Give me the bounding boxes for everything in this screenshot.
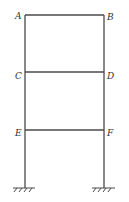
- label-d: D: [106, 71, 114, 81]
- label-b: B: [106, 12, 114, 22]
- label-a: A: [14, 11, 22, 21]
- fixed-support-right-icon: [92, 188, 115, 192]
- fixed-support-left-icon: [13, 188, 35, 192]
- label-e: E: [14, 128, 22, 138]
- frame-diagram: A B C D E F: [0, 0, 129, 202]
- label-c: C: [15, 71, 22, 81]
- label-f: F: [106, 128, 114, 138]
